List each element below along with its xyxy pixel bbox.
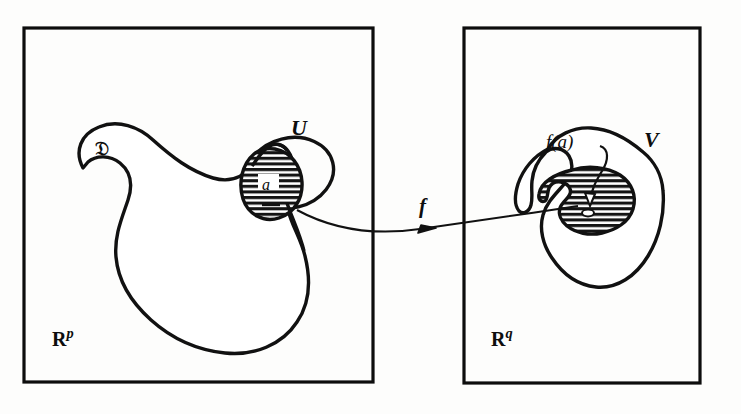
label-r-q-exponent: q bbox=[505, 325, 512, 341]
label-r-q-base: R bbox=[491, 328, 505, 350]
label-r-p-exponent: p bbox=[66, 325, 73, 341]
math-figure: U a 𝔇 f f(a) V Rp Rq bbox=[0, 0, 741, 414]
right-panel-content bbox=[516, 128, 664, 287]
label-r-p-base: R bbox=[52, 328, 66, 350]
mapping-arrow-line bbox=[297, 206, 578, 232]
mapping-arrow-group bbox=[297, 206, 578, 233]
label-a: a bbox=[262, 177, 270, 193]
label-r-p: Rp bbox=[52, 329, 74, 349]
label-f: f bbox=[419, 196, 426, 217]
label-V: V bbox=[644, 129, 659, 151]
label-U: U bbox=[291, 117, 307, 139]
image-point-marker bbox=[582, 210, 594, 217]
label-f-of-a: f(a) bbox=[546, 132, 573, 151]
left-panel-content bbox=[79, 124, 341, 354]
figure-canvas bbox=[0, 0, 741, 414]
label-r-q: Rq bbox=[491, 329, 513, 349]
label-domain-D: 𝔇 bbox=[95, 139, 109, 158]
